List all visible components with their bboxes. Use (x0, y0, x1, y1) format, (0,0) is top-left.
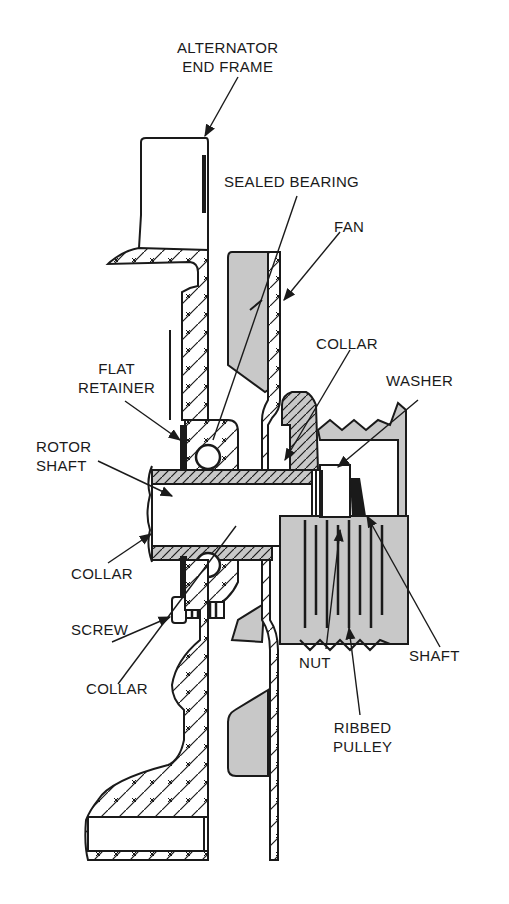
label-alternator-end-frame: ALTERNATOR END FRAME (177, 38, 278, 76)
bearing-ball-upper (196, 445, 220, 469)
label-collar-top: COLLAR (316, 334, 378, 353)
label-nut: NUT (299, 653, 331, 672)
fan-blade-upper (228, 252, 270, 392)
label-flat-retainer: FLAT RETAINER (78, 359, 155, 397)
nut (320, 465, 350, 517)
pulley-hub-collar (282, 392, 318, 470)
label-fan: FAN (334, 217, 364, 236)
label-washer: WASHER (386, 371, 453, 390)
label-collar-bottom: COLLAR (86, 679, 148, 698)
flat-retainer-upper (180, 425, 187, 475)
label-sealed-bearing: SEALED BEARING (224, 172, 359, 191)
washer (350, 478, 366, 516)
label-collar-left: COLLAR (71, 564, 133, 583)
label-screw: SCREW (71, 620, 128, 639)
label-ribbed-pulley: RIBBED PULLEY (333, 718, 392, 756)
label-shaft: SHAFT (409, 646, 460, 665)
collar-upper (152, 470, 312, 484)
fan-blade-bottom (228, 690, 268, 776)
label-rotor-shaft: ROTOR SHAFT (36, 437, 91, 475)
end-frame-lower (85, 560, 208, 860)
end-frame-bore (88, 817, 208, 851)
